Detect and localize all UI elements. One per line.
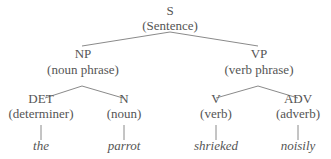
leaf-word-shrieked: shrieked [194,139,238,153]
node-np-gloss: (noun phrase) [47,63,119,77]
edge-vp-v [216,86,258,98]
node-v-gloss: (verb) [200,107,232,121]
node-n-label: N [119,92,128,106]
node-adv-gloss: (adverb) [276,107,320,121]
node-vp-gloss: (verb phrase) [225,63,294,77]
node-det-gloss: (determiner) [9,107,74,121]
node-s-gloss: (Sentence) [142,19,198,33]
node-v-label: V [211,92,220,106]
node-n-gloss: (noun) [107,107,142,121]
node-s-label: S [166,4,173,18]
leaf-word-the: the [33,139,49,153]
node-det-label: DET [28,92,53,106]
leaf-word-noisily: noisily [281,139,316,153]
leaf-word-parrot: parrot [108,139,141,153]
edge-s-vp [170,32,258,46]
node-vp-label: VP [251,47,268,61]
edge-s-np [82,32,170,46]
edge-np-n [82,86,123,98]
node-np-label: NP [75,47,92,61]
node-adv-label: ADV [284,92,312,106]
